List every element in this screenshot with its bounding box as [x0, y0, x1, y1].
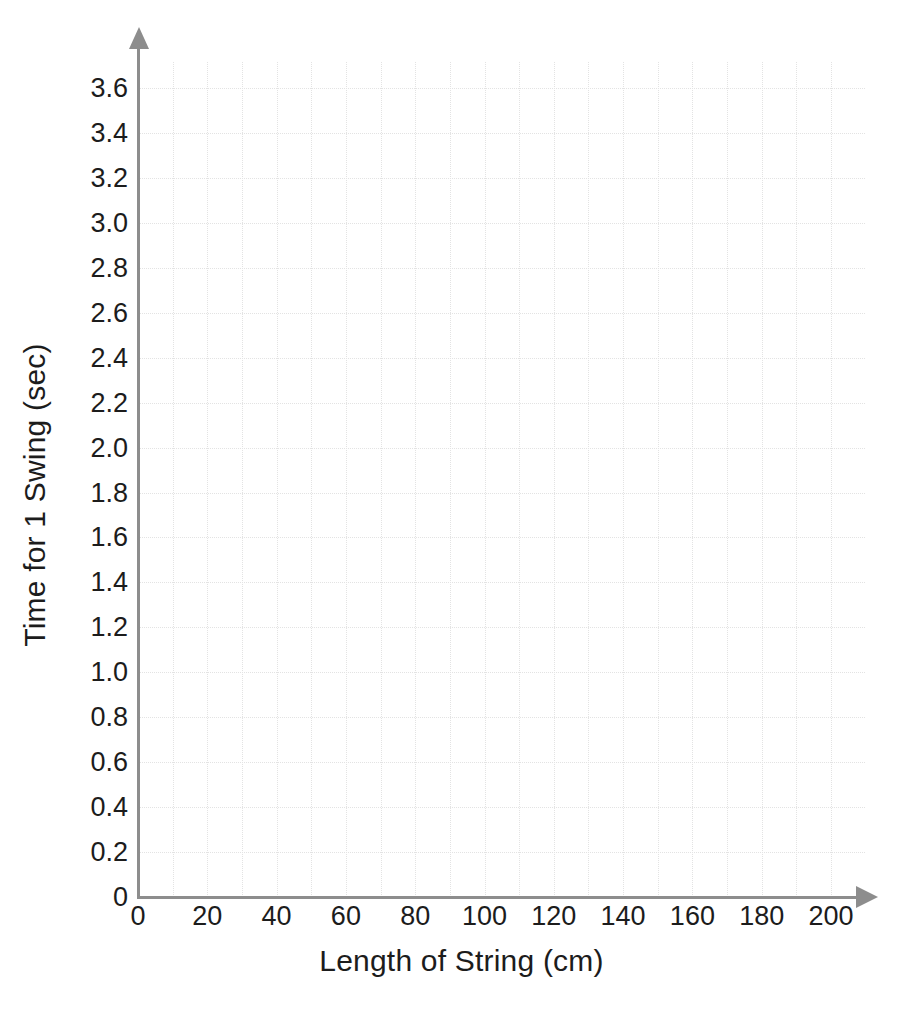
gridline-vertical — [485, 62, 486, 897]
x-axis-line — [138, 896, 860, 899]
gridline-vertical — [762, 62, 763, 897]
gridline-horizontal — [138, 313, 865, 314]
gridline-vertical — [277, 62, 278, 897]
plot-area — [138, 62, 865, 897]
gridline-horizontal — [138, 627, 865, 628]
gridline-horizontal — [138, 672, 865, 673]
gridline-vertical — [381, 62, 382, 897]
gridline-vertical — [692, 62, 693, 897]
gridline-horizontal — [138, 178, 865, 179]
gridline-vertical — [311, 62, 312, 897]
gridline-horizontal — [138, 537, 865, 538]
y-axis-line — [137, 44, 140, 899]
gridline-horizontal — [138, 852, 865, 853]
gridline-horizontal — [138, 403, 865, 404]
gridline-horizontal — [138, 133, 865, 134]
gridlines — [138, 62, 865, 897]
gridline-vertical — [450, 62, 451, 897]
gridline-horizontal — [138, 717, 865, 718]
gridline-vertical — [658, 62, 659, 897]
gridline-vertical — [727, 62, 728, 897]
gridline-horizontal — [138, 582, 865, 583]
x-axis-tick-label: 200 — [761, 903, 901, 930]
gridline-vertical — [346, 62, 347, 897]
gridline-horizontal — [138, 88, 865, 89]
gridline-horizontal — [138, 358, 865, 359]
gridline-vertical — [554, 62, 555, 897]
gridline-vertical — [588, 62, 589, 897]
y-axis-tick-label: 3.6 — [8, 75, 128, 102]
gridline-vertical — [173, 62, 174, 897]
y-axis-title: Time for 1 Swing (sec) — [18, 145, 52, 845]
gridline-horizontal — [138, 762, 865, 763]
gridline-horizontal — [138, 807, 865, 808]
gridline-horizontal — [138, 448, 865, 449]
chart-canvas: 00.20.40.60.81.01.21.41.61.82.02.22.42.6… — [0, 0, 923, 1017]
gridline-vertical — [207, 62, 208, 897]
gridline-horizontal — [138, 493, 865, 494]
arrow-up-icon — [129, 27, 149, 49]
y-axis-tick-label: 3.4 — [8, 119, 128, 146]
gridline-horizontal — [138, 268, 865, 269]
gridline-vertical — [796, 62, 797, 897]
gridline-vertical — [242, 62, 243, 897]
gridline-vertical — [519, 62, 520, 897]
gridline-vertical — [831, 62, 832, 897]
gridline-vertical — [415, 62, 416, 897]
gridline-vertical — [623, 62, 624, 897]
x-axis-title: Length of String (cm) — [0, 944, 923, 978]
gridline-horizontal — [138, 223, 865, 224]
